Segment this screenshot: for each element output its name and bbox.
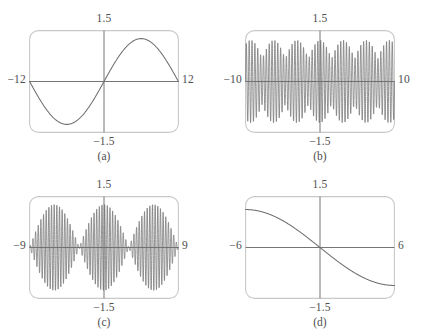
plot-curve [30, 205, 179, 291]
panel-d-x-left-label: −6 [216, 240, 242, 252]
panel-b-y-top-label: 1.5 [245, 13, 395, 25]
panel-a-y-top-label: 1.5 [29, 13, 179, 25]
panel-d-y-bottom-label: −1.5 [245, 302, 395, 314]
panel-b-svg [245, 30, 395, 133]
panel-c-y-bottom-label: −1.5 [29, 302, 179, 314]
panel-a-caption: (a) [29, 150, 179, 162]
panel-a-plot-area [29, 30, 179, 133]
panel-c-plot-area [29, 196, 179, 299]
panel-a-svg [29, 30, 179, 133]
panel-c-x-left-label: −9 [0, 240, 26, 252]
panel-d-plot-area [245, 196, 395, 299]
panel-d-y-top-label: 1.5 [245, 179, 395, 191]
graph-panel-c: 1.5 −9 9 −1.5 (c) [0, 166, 216, 332]
panel-a-x-left-label: −12 [0, 74, 26, 86]
panel-a-y-bottom-label: −1.5 [29, 136, 179, 148]
panel-c-caption: (c) [29, 316, 179, 328]
graph-panel-a: 1.5 −12 12 −1.5 (a) [0, 0, 216, 166]
panel-c-x-right-label: 9 [182, 240, 212, 252]
panel-b-plot-area [245, 30, 395, 133]
graph-panel-b: 1.5 −10 10 −1.5 (b) [216, 0, 432, 166]
panel-d-x-right-label: 6 [398, 240, 428, 252]
graph-panel-d: 1.5 −6 6 −1.5 (d) [216, 166, 432, 332]
panel-d-svg [245, 196, 395, 299]
panel-b-caption: (b) [245, 150, 395, 162]
panel-b-x-right-label: 10 [398, 74, 428, 86]
panel-a-x-right-label: 12 [182, 74, 212, 86]
panel-b-x-left-label: −10 [216, 74, 242, 86]
panel-b-y-bottom-label: −1.5 [245, 136, 395, 148]
panel-c-y-top-label: 1.5 [29, 179, 179, 191]
panel-d-caption: (d) [245, 316, 395, 328]
panel-c-svg [29, 196, 179, 299]
